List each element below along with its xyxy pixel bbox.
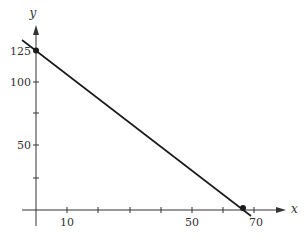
x-intercept-point <box>240 205 246 211</box>
y-tick-label-125: 125 <box>10 45 31 58</box>
y-tick-label-50: 50 <box>17 139 31 152</box>
y-tick-label-100: 100 <box>10 76 31 89</box>
x-axis-arrow-icon <box>276 207 286 213</box>
line-chart: 10 50 70 50 100 125 x y <box>0 0 306 240</box>
x-tick-label-10: 10 <box>60 216 74 229</box>
y-axis-arrow-icon <box>33 25 39 35</box>
data-line <box>22 40 251 216</box>
y-axis-label: y <box>29 6 37 20</box>
y-intercept-point <box>33 48 39 54</box>
x-tick-label-50: 50 <box>185 216 199 229</box>
x-axis-label: x <box>291 202 298 216</box>
x-tick-label-70: 70 <box>249 216 263 229</box>
